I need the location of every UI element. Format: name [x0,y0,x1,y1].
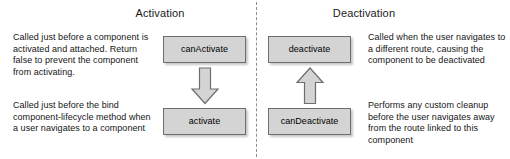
activation-description-activate: Called just before the bind component-li… [13,100,155,135]
node-activate[interactable]: activate [163,108,246,135]
activation-description-can-activate: Called just before a component is activa… [13,32,155,78]
node-can-deactivate-label: canDeactivate [281,116,339,127]
node-deactivate[interactable]: deactivate [268,36,351,63]
node-activate-label: activate [189,116,220,127]
section-divider [256,2,257,157]
deactivation-title: Deactivation [300,7,428,20]
node-deactivate-label: deactivate [289,44,331,55]
activation-title: Activation [105,7,215,20]
arrow-down-icon [190,67,220,105]
arrow-up-icon [295,67,325,105]
deactivation-description-can-deactivate: Performs any custom cleanup before the u… [368,100,508,146]
node-can-deactivate[interactable]: canDeactivate [268,108,351,135]
lifecycle-diagram: Activation Called just before a componen… [0,0,510,159]
node-can-activate[interactable]: canActivate [163,36,246,63]
node-can-activate-label: canActivate [181,44,228,55]
deactivation-description-deactivate: Called when the user navigates to a diff… [368,32,508,67]
